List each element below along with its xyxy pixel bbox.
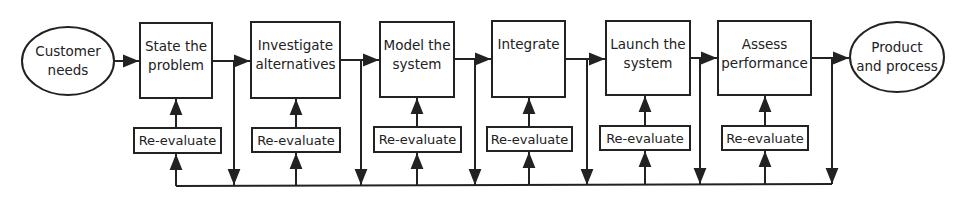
stage-investigate-alternatives: Investigate alternatives <box>251 22 340 98</box>
process-flow-diagram: Customer needs Product and process State… <box>0 0 965 201</box>
stage-model-system: Model the system <box>380 22 454 97</box>
stage-state-problem: State the problem <box>140 23 212 98</box>
start-node: Customer needs <box>22 27 114 95</box>
end-node: Product and process <box>850 22 944 92</box>
stage-launch-system: Launch the system <box>606 21 690 95</box>
reevaluate-box-6: Re-evaluate <box>722 126 808 150</box>
reevaluate-box-2: Re-evaluate <box>252 128 340 152</box>
reevaluate-box-3: Re-evaluate <box>374 127 461 152</box>
reevaluate-box-5: Re-evaluate <box>600 126 690 150</box>
stage-integrate: Integrate <box>492 21 565 97</box>
reevaluate-box-1: Re-evaluate <box>134 128 221 153</box>
reevaluate-box-4: Re-evaluate <box>487 127 572 151</box>
stage-assess-performance: Assess performance <box>718 21 811 95</box>
